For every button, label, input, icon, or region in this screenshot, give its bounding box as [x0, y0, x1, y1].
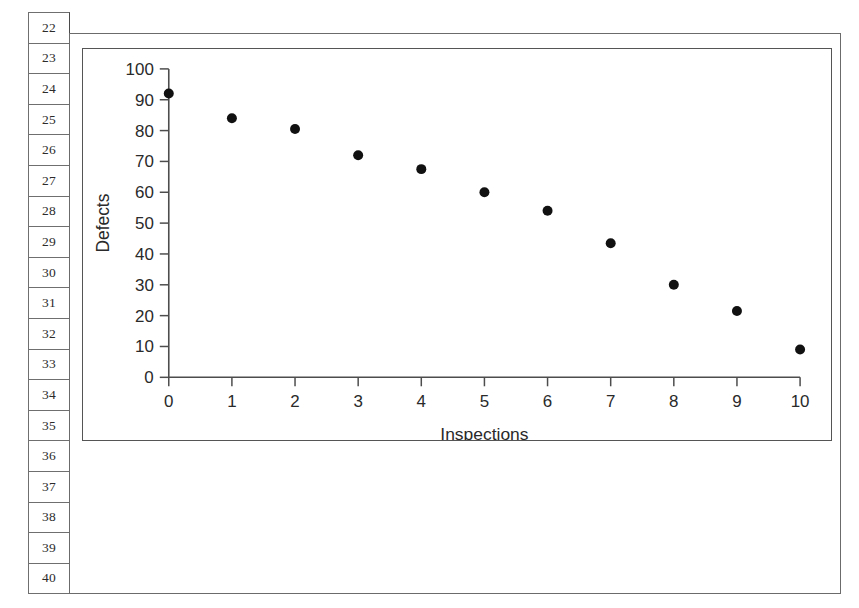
spreadsheet-row-header-column[interactable]: 22232425262728293031323334353637383940 — [28, 12, 70, 594]
data-point — [290, 124, 300, 134]
data-point — [795, 345, 805, 355]
row-header-cell[interactable]: 31 — [29, 288, 69, 319]
data-point — [479, 187, 489, 197]
row-header-cell[interactable]: 39 — [29, 533, 69, 564]
data-point — [164, 89, 174, 99]
x-tick-label: 6 — [543, 392, 552, 411]
row-header-cell[interactable]: 33 — [29, 350, 69, 381]
spreadsheet-chart-screen: 22232425262728293031323334353637383940 0… — [0, 0, 859, 608]
y-tick-label: 90 — [135, 91, 154, 110]
x-tick-label: 3 — [353, 392, 362, 411]
x-tick-label: 9 — [732, 392, 741, 411]
y-tick-label: 20 — [135, 307, 154, 326]
row-header-cell[interactable]: 32 — [29, 319, 69, 350]
scatter-plot-canvas: 0102030405060708090100012345678910Inspec… — [83, 49, 831, 440]
y-tick-label: 60 — [135, 183, 154, 202]
y-tick-label: 30 — [135, 276, 154, 295]
row-header-cell[interactable]: 30 — [29, 258, 69, 289]
data-point — [543, 206, 553, 216]
x-axis-title: Inspections — [440, 424, 529, 440]
data-point — [227, 113, 237, 123]
row-header-cell[interactable]: 22 — [29, 13, 69, 44]
row-header-cell[interactable]: 40 — [29, 564, 69, 595]
data-point — [606, 238, 616, 248]
y-tick-label: 0 — [144, 368, 153, 387]
data-point — [669, 280, 679, 290]
y-tick-label: 80 — [135, 122, 154, 141]
row-header-cell[interactable]: 35 — [29, 411, 69, 442]
data-point — [732, 306, 742, 316]
x-tick-label: 10 — [791, 392, 810, 411]
y-tick-label: 100 — [126, 60, 154, 79]
worksheet-area[interactable]: 0102030405060708090100012345678910Inspec… — [69, 33, 841, 594]
x-tick-label: 2 — [290, 392, 299, 411]
y-axis-title: Defects — [93, 193, 113, 252]
y-tick-label: 50 — [135, 214, 154, 233]
row-header-cell[interactable]: 27 — [29, 166, 69, 197]
y-tick-label: 10 — [135, 337, 154, 356]
row-header-cell[interactable]: 28 — [29, 197, 69, 228]
row-header-cell[interactable]: 37 — [29, 472, 69, 503]
row-header-cell[interactable]: 29 — [29, 227, 69, 258]
x-tick-label: 7 — [606, 392, 615, 411]
axis-spine — [169, 69, 800, 377]
row-header-cell[interactable]: 26 — [29, 135, 69, 166]
data-point — [416, 164, 426, 174]
embedded-chart-object[interactable]: 0102030405060708090100012345678910Inspec… — [82, 48, 832, 441]
row-header-cell[interactable]: 23 — [29, 44, 69, 75]
y-tick-label: 70 — [135, 152, 154, 171]
x-tick-label: 5 — [480, 392, 489, 411]
row-header-cell[interactable]: 24 — [29, 74, 69, 105]
x-tick-label: 8 — [669, 392, 678, 411]
y-tick-label: 40 — [135, 245, 154, 264]
x-tick-label: 4 — [417, 392, 426, 411]
x-tick-label: 0 — [164, 392, 173, 411]
x-tick-label: 1 — [227, 392, 236, 411]
row-header-cell[interactable]: 36 — [29, 441, 69, 472]
data-point — [353, 150, 363, 160]
row-header-cell[interactable]: 38 — [29, 503, 69, 534]
scatter-plot-svg: 0102030405060708090100012345678910Inspec… — [83, 49, 831, 440]
row-header-cell[interactable]: 25 — [29, 105, 69, 136]
row-header-cell[interactable]: 34 — [29, 380, 69, 411]
